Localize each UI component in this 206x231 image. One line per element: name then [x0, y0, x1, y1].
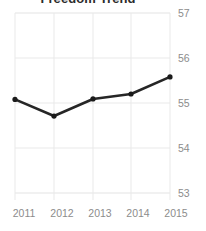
x-tick-label-2013: 2013 — [88, 207, 111, 219]
y-tick-label-55: 55 — [178, 97, 190, 109]
plot-area — [0, 0, 206, 231]
data-point-2014 — [128, 91, 133, 96]
data-point-2015 — [167, 74, 172, 79]
y-tick-label-53: 53 — [178, 187, 190, 199]
y-tick-label-56: 56 — [178, 52, 190, 64]
data-point-2011 — [12, 97, 17, 102]
y-tick-label-57: 57 — [178, 7, 190, 19]
x-tick-label-2012: 2012 — [50, 207, 73, 219]
x-tick-label-2011: 2011 — [13, 207, 36, 219]
y-tick-label-54: 54 — [178, 142, 190, 154]
line-chart: Freedom Trend 57 56 55 54 53 2011 2012 2… — [0, 0, 206, 231]
grid-lines-vertical — [15, 13, 170, 200]
data-point-2013 — [90, 96, 95, 101]
x-tick-label-2015: 2015 — [164, 207, 187, 219]
data-point-2012 — [51, 113, 56, 118]
x-tick-label-2014: 2014 — [126, 207, 149, 219]
